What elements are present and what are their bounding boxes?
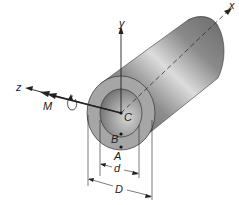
- z-axis-label: z: [15, 81, 22, 93]
- tube-diagram: x y z M C B A: [0, 0, 239, 205]
- point-a-label: A: [113, 150, 121, 162]
- diagram-svg: x y z M C B A: [0, 0, 239, 205]
- point-c-label: C: [124, 111, 132, 123]
- moment-label: M: [43, 100, 53, 112]
- y-axis-label: y: [118, 17, 126, 29]
- x-axis-label: x: [228, 0, 235, 11]
- outer-diameter-label: D: [115, 183, 123, 195]
- inner-diameter-label: d: [114, 162, 121, 174]
- point-b: [119, 132, 122, 135]
- point-a: [119, 145, 122, 148]
- point-c: [119, 111, 122, 114]
- point-b-label: B: [111, 133, 118, 145]
